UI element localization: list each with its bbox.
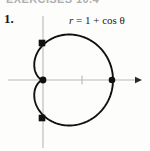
marked-point-lower [39, 115, 46, 122]
marked-point-max [109, 77, 116, 84]
marked-point-upper [39, 40, 46, 47]
polar-figure-panel: EXERCISES 10.4 1. r = 1 + cos θ [0, 0, 150, 151]
x-axis-arrowhead [135, 77, 142, 83]
cardioid-plot [0, 0, 150, 151]
marked-point-cusp [40, 77, 47, 84]
